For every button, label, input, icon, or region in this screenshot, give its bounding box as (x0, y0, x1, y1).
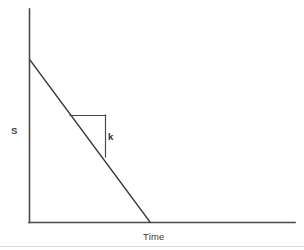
decay-line (30, 60, 150, 222)
figure-root: S Time k (0, 0, 304, 250)
slope-label: k (108, 131, 113, 142)
y-axis-label: S (11, 125, 18, 136)
x-axis-label: Time (143, 231, 165, 242)
plot-canvas (0, 0, 304, 250)
